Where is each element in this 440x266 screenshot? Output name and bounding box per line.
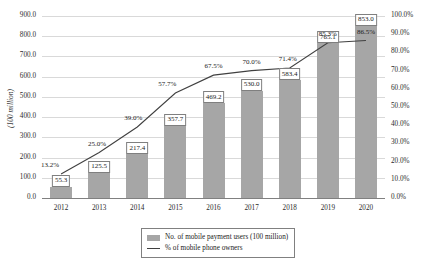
bar-data-label: 853.0 bbox=[355, 14, 377, 26]
line-data-label: 25.0% bbox=[88, 141, 106, 148]
x-axis-tick-label: 2015 bbox=[168, 205, 182, 212]
x-axis-tick-label: 2012 bbox=[54, 205, 68, 212]
right-axis-tick-label: 40.0% bbox=[391, 121, 410, 128]
bar-data-label: 125.5 bbox=[88, 161, 110, 173]
x-axis-tick-label: 2017 bbox=[244, 205, 258, 212]
left-axis-tick-label: 0.0 bbox=[0, 194, 36, 201]
x-axis-line bbox=[42, 198, 385, 199]
line-path bbox=[61, 41, 366, 174]
left-axis-tick-label: 500.0 bbox=[0, 93, 36, 100]
right-axis-tick-label: 10.0% bbox=[391, 176, 410, 183]
x-axis-tick-label: 2020 bbox=[359, 205, 373, 212]
right-axis-tick-label: 20.0% bbox=[391, 158, 410, 165]
left-axis-tick-label: 100.0 bbox=[0, 174, 36, 181]
right-axis-tick-label: 90.0% bbox=[391, 30, 410, 37]
legend-item-line-label: % of mobile phone owners bbox=[165, 245, 242, 252]
bar-data-label: 55.3 bbox=[52, 175, 70, 187]
legend-item-line: % of mobile phone owners bbox=[147, 243, 288, 254]
line-data-label: 85.3% bbox=[319, 31, 337, 38]
right-axis-tick-label: 30.0% bbox=[391, 139, 410, 146]
legend-item-bar-label: No. of mobile payment users (100 million… bbox=[165, 234, 288, 241]
plot-area: 55.3125.5217.4357.7469.2530.0583.4765.18… bbox=[42, 16, 385, 198]
line-data-label: 13.2% bbox=[41, 162, 59, 169]
line-swatch-icon bbox=[147, 248, 160, 249]
legend-item-bar: No. of mobile payment users (100 million… bbox=[147, 232, 288, 243]
right-axis-tick-label: 60.0% bbox=[391, 85, 410, 92]
left-axis-tick-label: 600.0 bbox=[0, 73, 36, 80]
right-axis-tick-label: 100.0% bbox=[391, 12, 413, 19]
bar-data-label: 217.4 bbox=[126, 142, 148, 154]
bar-swatch-icon bbox=[147, 235, 160, 241]
right-axis-tick-label: 80.0% bbox=[391, 48, 410, 55]
bar-data-label: 469.2 bbox=[203, 91, 225, 103]
left-axis-tick-label: 400.0 bbox=[0, 113, 36, 120]
left-axis-tick-label: 900.0 bbox=[0, 12, 36, 19]
combo-chart: (100 million) 0.0100.0200.0300.0400.0500… bbox=[0, 0, 440, 266]
left-axis-tick-label: 800.0 bbox=[0, 32, 36, 39]
x-axis-tick-label: 2016 bbox=[206, 205, 220, 212]
bar-data-label: 357.7 bbox=[165, 114, 187, 126]
line-data-label: 57.7% bbox=[158, 81, 176, 88]
x-axis-tick-label: 2018 bbox=[283, 205, 297, 212]
chart-legend: No. of mobile payment users (100 million… bbox=[141, 228, 295, 258]
line-data-label: 71.4% bbox=[279, 56, 297, 63]
x-axis-tick-label: 2014 bbox=[130, 205, 144, 212]
x-axis-tick-label: 2013 bbox=[92, 205, 106, 212]
right-axis-tick-label: 0.0% bbox=[391, 194, 406, 201]
line-data-label: 67.5% bbox=[204, 63, 222, 70]
x-axis-tick-label: 2019 bbox=[321, 205, 335, 212]
right-axis-tick-label: 70.0% bbox=[391, 67, 410, 74]
bar-data-label: 530.0 bbox=[241, 79, 263, 91]
left-axis-tick-label: 200.0 bbox=[0, 154, 36, 161]
right-axis-tick-label: 50.0% bbox=[391, 103, 410, 110]
left-axis-tick-label: 300.0 bbox=[0, 133, 36, 140]
line-data-label: 70.0% bbox=[243, 59, 261, 66]
line-data-label: 86.5% bbox=[357, 29, 375, 36]
bar-data-label: 583.4 bbox=[279, 68, 301, 80]
line-data-label: 39.0% bbox=[124, 115, 142, 122]
left-axis-tick-label: 700.0 bbox=[0, 52, 36, 59]
